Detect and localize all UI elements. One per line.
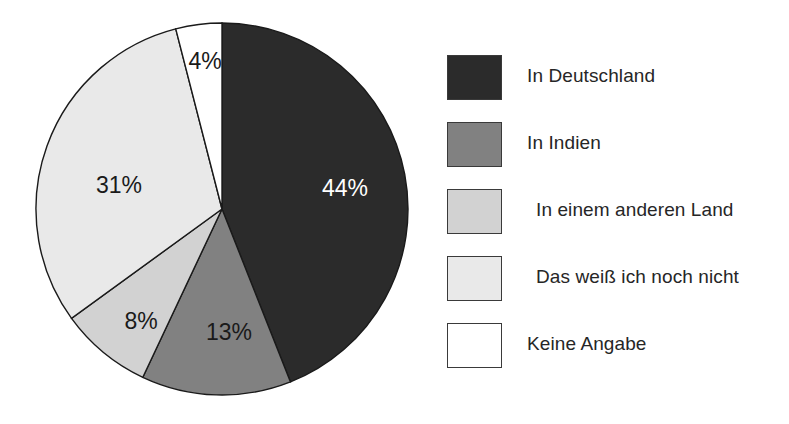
pie-chart-plot-area: 44%13%8%31%4% [0,0,440,424]
pie-chart-figure: 44%13%8%31%4% In Deutschland In Indien I… [0,0,789,424]
pie-slice-value-label: 4% [188,48,221,74]
legend-item-in-einem-anderen-land[interactable]: In einem anderen Land [447,182,777,249]
legend-label-in-indien: In Indien [527,132,601,154]
pie-slice-value-label: 44% [322,175,368,201]
pie-chart-svg: 44%13%8%31%4% [0,0,440,424]
chart-legend: In Deutschland In Indien In einem andere… [447,48,777,383]
pie-slice-value-label: 8% [124,308,157,334]
legend-label-das-weiss-ich-noch-nicht: Das weiß ich noch nicht [536,266,739,288]
legend-swatch-keine-angabe [447,323,502,368]
legend-swatch-das-weiss-ich-noch-nicht [447,256,502,301]
legend-item-in-deutschland[interactable]: In Deutschland [447,48,777,115]
legend-item-in-indien[interactable]: In Indien [447,115,777,182]
legend-swatch-in-deutschland [447,55,502,100]
legend-label-in-einem-anderen-land: In einem anderen Land [536,199,734,221]
pie-slice-value-label: 13% [206,319,252,345]
legend-item-keine-angabe[interactable]: Keine Angabe [447,316,777,383]
legend-label-in-deutschland: In Deutschland [527,65,655,87]
legend-item-das-weiss-ich-noch-nicht[interactable]: Das weiß ich noch nicht [447,249,777,316]
legend-swatch-in-einem-anderen-land [447,189,502,234]
legend-label-keine-angabe: Keine Angabe [527,333,647,355]
legend-swatch-in-indien [447,122,502,167]
pie-slice-value-label: 31% [96,172,142,198]
